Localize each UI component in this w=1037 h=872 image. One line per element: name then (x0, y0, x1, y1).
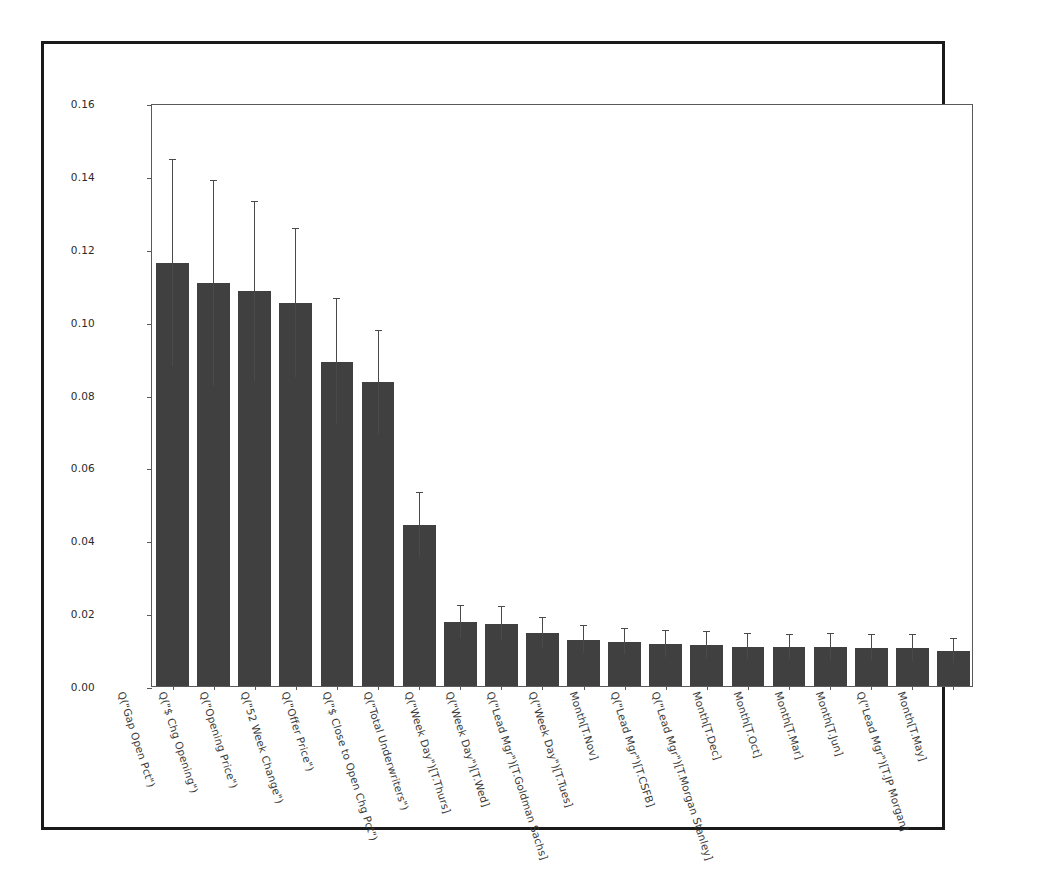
bar-group[interactable] (855, 105, 888, 686)
error-bar (378, 331, 379, 433)
error-bar-cap-upper (580, 625, 587, 626)
bar-group[interactable] (485, 105, 518, 686)
x-axis-tick-mark (871, 686, 872, 690)
y-axis-tick-mark (147, 542, 152, 543)
error-bar-cap-upper (744, 633, 751, 634)
x-axis-tick-mark (501, 686, 502, 690)
x-axis-tick-label: Q("52 Week Change") (238, 690, 286, 805)
error-bar-cap-upper (621, 628, 628, 629)
error-bar (912, 635, 913, 661)
bar-group[interactable] (608, 105, 641, 686)
bar-group[interactable] (773, 105, 806, 686)
x-axis-tick-label: Q("Gap Open Pct") (115, 690, 157, 789)
error-bar-cap-upper (909, 634, 916, 635)
x-axis-tick-mark (912, 686, 913, 690)
x-axis-tick-label: Q("Week Day")[T.Wed] (444, 690, 493, 808)
error-bar (953, 639, 954, 664)
error-bar (460, 606, 461, 638)
error-bar (665, 631, 666, 657)
x-axis-tick-mark (625, 686, 626, 690)
error-bar-cap-upper (333, 298, 340, 299)
error-bar (419, 493, 420, 556)
error-bar (706, 632, 707, 658)
x-axis-tick-label: Month[T.Mar] (773, 690, 806, 761)
bar-group[interactable] (567, 105, 600, 686)
error-bar (336, 299, 337, 424)
error-bar (789, 635, 790, 659)
x-axis-tick-mark (214, 686, 215, 690)
x-axis-tick-mark (789, 686, 790, 690)
bar-group[interactable] (896, 105, 929, 686)
bar-group[interactable] (649, 105, 682, 686)
x-axis-tick-label: Month[T.Nov] (567, 690, 600, 762)
x-axis-tick-label: Q("Total Underwriters") (362, 690, 412, 812)
y-axis-tick-label: 0.10 (71, 317, 104, 329)
y-axis-tick-mark (147, 178, 152, 179)
error-bar (254, 202, 255, 381)
x-axis-tick-label: Q("Lead Mgr")[T.CSFB] (608, 690, 657, 809)
x-axis-tick-mark (542, 686, 543, 690)
error-bar-cap-upper (539, 617, 546, 618)
error-bar-cap-upper (251, 201, 258, 202)
error-bar-cap-upper (457, 605, 464, 606)
x-axis-tick-mark (666, 686, 667, 690)
x-axis-tick-label: Q("Week Day")[T.Thurs] (403, 690, 454, 815)
bar-group[interactable] (238, 105, 271, 686)
x-axis-tick-mark (419, 686, 420, 690)
bar-group[interactable] (279, 105, 312, 686)
bar-group[interactable] (362, 105, 395, 686)
x-axis-tick-mark (748, 686, 749, 690)
bar-group[interactable] (444, 105, 477, 686)
y-axis-tick-mark (147, 324, 152, 325)
x-axis-tick-mark (830, 686, 831, 690)
chart-axes (151, 104, 973, 687)
error-bar-cap-upper (416, 492, 423, 493)
y-axis-tick-mark (147, 615, 152, 616)
x-axis-tick-mark (460, 686, 461, 690)
bar-group[interactable] (937, 105, 970, 686)
error-bar-cap-upper (210, 180, 217, 181)
error-bar-cap-upper (786, 634, 793, 635)
error-bar-cap-upper (703, 631, 710, 632)
bar-group[interactable] (690, 105, 723, 686)
y-axis-tick-label: 0.12 (71, 244, 104, 256)
bar-group[interactable] (321, 105, 354, 686)
bar-group[interactable] (732, 105, 765, 686)
x-axis-tick-label: Q("Week Day")[T.Tues] (526, 690, 575, 809)
bar-group[interactable] (403, 105, 436, 686)
x-axis-tick-mark (707, 686, 708, 690)
bar-group[interactable] (814, 105, 847, 686)
y-axis-tick-mark (147, 251, 152, 252)
error-bar (583, 626, 584, 653)
x-axis-tick-mark (173, 686, 174, 690)
error-bar (501, 607, 502, 641)
x-axis-tick-mark (378, 686, 379, 690)
error-bar (830, 634, 831, 660)
figure-page: 0.000.020.040.060.080.100.120.140.16 Q("… (0, 0, 1037, 872)
error-bar-cap-upper (498, 606, 505, 607)
y-axis-tick-mark (147, 105, 152, 106)
bar-group[interactable] (156, 105, 189, 686)
x-axis-tick-label: Month[T.Oct] (732, 690, 765, 759)
x-axis-tick-label: Q("$ Chg Opening") (156, 690, 200, 795)
error-bar (213, 181, 214, 386)
x-axis-tick-label: Q("Opening Price") (197, 690, 240, 790)
error-bar-cap-upper (868, 634, 875, 635)
error-bar-cap-upper (662, 630, 669, 631)
error-bar-cap-upper (950, 638, 957, 639)
error-bar (295, 229, 296, 377)
error-bar-cap-upper (292, 228, 299, 229)
plot-area (152, 105, 972, 686)
y-axis-tick-label: 0.00 (71, 681, 104, 693)
y-axis-tick-label: 0.14 (71, 171, 104, 183)
bar-group[interactable] (197, 105, 230, 686)
x-axis-tick-label: Month[T.Dec] (691, 690, 724, 761)
bar-group[interactable] (526, 105, 559, 686)
y-axis-tick-label: 0.02 (71, 608, 104, 620)
figure-frame: 0.000.020.040.060.080.100.120.140.16 Q("… (41, 41, 945, 830)
x-axis-tick-label: Q("Offer Price") (280, 690, 317, 773)
y-axis-tick-mark (147, 688, 152, 689)
error-bar (747, 634, 748, 660)
error-bar (871, 635, 872, 660)
x-axis-tick-mark (953, 686, 954, 690)
